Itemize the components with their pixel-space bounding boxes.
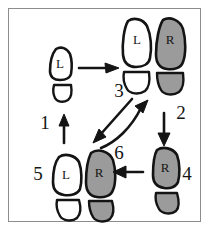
step-label-3: 3 [114,80,124,101]
arrow-right-icon [79,63,119,73]
arrow-down-icon [158,113,170,146]
footprint-4-right-heel [156,193,179,213]
footprint-1-left-heel [53,85,71,102]
footprint-5-right: R [86,151,115,222]
step-label-6: 6 [114,142,124,163]
footprint-diagram-canvas: L L R R L R [0,0,211,232]
step-label-4: 4 [182,163,192,184]
footprint-2-right: R [156,18,185,94]
footprint-2-left: L [123,19,151,94]
footprint-5-left: L [53,155,81,221]
arrow-left-icon [113,166,143,178]
step-label-5: 5 [33,163,43,184]
footprint-2-left-label: L [133,32,141,47]
footprint-4-right-label: R [161,160,170,175]
footprint-5-right-heel [89,201,113,221]
footprint-2-right-heel [157,73,184,94]
arrow-down-left-icon [93,99,132,143]
footprint-5-left-heel [57,200,81,220]
footprint-2-left-heel [124,72,150,93]
footprint-1-left-label: L [56,56,64,71]
footprint-5-right-label: R [95,165,104,180]
step-label-2: 2 [176,102,186,123]
footprint-diagram-svg: L L R R L R [0,0,211,232]
footprint-4-right: R [153,148,179,214]
footprint-5-left-label: L [62,167,70,182]
diagram-artwork: L L R R L R [0,0,211,232]
arrow-up-icon [59,114,69,143]
footprint-1-left: L [50,48,72,102]
footprint-2-right-label: R [166,32,175,47]
step-label-1: 1 [40,112,50,133]
